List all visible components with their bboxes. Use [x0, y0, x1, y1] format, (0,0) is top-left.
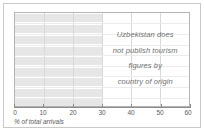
placeholder-band [15, 78, 102, 86]
x-tick-20 [73, 104, 74, 108]
x-tick-label-10: 10 [39, 109, 46, 116]
x-tick-label-20: 20 [69, 109, 76, 116]
x-tick-label-50: 50 [156, 109, 163, 116]
placeholder-band [15, 47, 102, 55]
plot-area: Uzbekistan does not publish tourism figu… [14, 12, 190, 107]
x-tick-40 [131, 104, 132, 108]
annotation-line-1: Uzbekistan does [105, 27, 185, 43]
gridline-horizontal [15, 23, 189, 24]
placeholder-band [15, 36, 102, 44]
gridline-vertical-30 [102, 13, 103, 106]
x-tick-0 [14, 104, 15, 108]
x-tick-30 [102, 104, 103, 108]
placeholder-band [15, 89, 102, 97]
x-tick-60 [190, 104, 191, 108]
placeholder-band [15, 68, 102, 76]
gridline-vertical-20 [73, 13, 74, 106]
placeholder-band [15, 57, 102, 65]
placeholder-band [15, 14, 102, 22]
gridline-horizontal [15, 98, 189, 99]
placeholder-band [15, 25, 102, 33]
annotation-line-2: not publish tourism [105, 43, 185, 59]
x-tick-10 [43, 104, 44, 108]
placeholder-band [15, 99, 102, 107]
placeholder-bar-bands [15, 13, 102, 106]
x-tick-50 [161, 104, 162, 108]
x-axis-caption: % of total arrivals [14, 118, 64, 125]
x-tick-label-0: 0 [13, 109, 17, 116]
x-tick-label-60: 60 [184, 109, 191, 116]
x-tick-label-30: 30 [98, 109, 105, 116]
no-data-annotation: Uzbekistan does not publish tourism figu… [105, 27, 185, 89]
x-tick-label-40: 40 [127, 109, 134, 116]
gridline-vertical-10 [44, 13, 45, 106]
chart-figure: Uzbekistan does not publish tourism figu… [0, 0, 204, 131]
annotation-line-3: figures by [105, 58, 185, 74]
x-axis-line [14, 107, 190, 108]
annotation-line-4: country of origin [105, 74, 185, 90]
